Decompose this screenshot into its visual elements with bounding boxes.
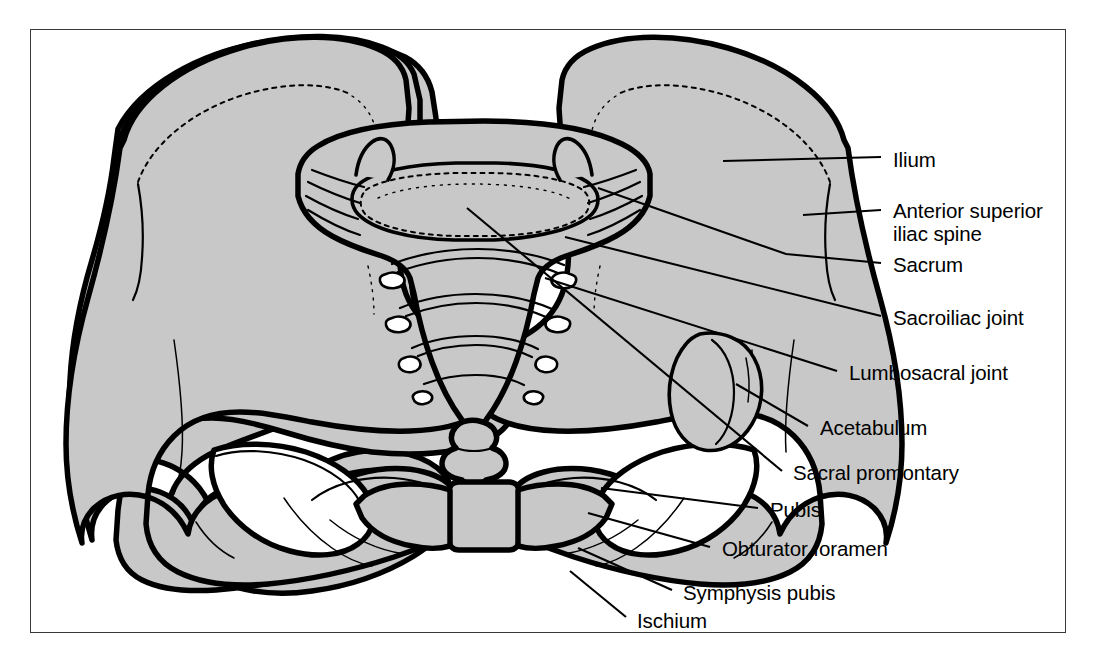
label-anterior-superior-iliac-spine-line2: iliac spine xyxy=(893,222,982,245)
label-ilium-text: Ilium xyxy=(893,148,936,171)
label-symphysis-pubis-text: Symphysis pubis xyxy=(683,581,835,604)
sacral-foramen-left-3 xyxy=(399,357,421,373)
label-symphysis-pubis: Symphysis pubis xyxy=(683,581,835,604)
label-obturator-foramen-text: Obturator foramen xyxy=(722,537,888,560)
label-sacroiliac-joint: Sacroiliac joint xyxy=(893,306,1024,329)
sacral-foramen-right-3 xyxy=(535,357,557,373)
sacral-foramen-left-4 xyxy=(413,391,432,404)
label-sacrum-text: Sacrum xyxy=(893,253,963,276)
label-sacroiliac-joint-text: Sacroiliac joint xyxy=(893,306,1024,329)
label-ilium: Ilium xyxy=(893,148,936,171)
label-pubis-text: Pubis xyxy=(770,498,821,521)
pelvis-illustration: .bone { fill: #c8c8c8; stroke: #000000; … xyxy=(0,0,1096,659)
leader-ischium xyxy=(570,571,626,617)
label-ischium-text: Ischium xyxy=(637,609,707,632)
sacral-foramen-right-4 xyxy=(524,391,543,404)
label-pubis: Pubis xyxy=(770,498,821,521)
label-acetabulum-text: Acetabulum xyxy=(820,416,927,439)
label-sacrum: Sacrum xyxy=(893,253,963,276)
label-sacral-promontary-text: Sacral promontary xyxy=(793,461,959,484)
label-lumbosacral-joint: Lumbosacral joint xyxy=(849,361,1008,384)
label-anterior-superior-iliac-spine-line1: Anterior superior xyxy=(893,199,1043,222)
symphysis-pubis xyxy=(449,482,519,550)
label-ischium: Ischium xyxy=(637,609,707,632)
sacral-foramen-right-2 xyxy=(545,317,570,333)
label-acetabulum: Acetabulum xyxy=(820,416,927,439)
sacral-foramen-left-2 xyxy=(386,317,411,333)
sacral-foramen-left-1 xyxy=(380,273,405,289)
figure-root: .bone { fill: #c8c8c8; stroke: #000000; … xyxy=(0,0,1096,659)
label-lumbosacral-joint-text: Lumbosacral joint xyxy=(849,361,1008,384)
label-obturator-foramen: Obturator foramen xyxy=(722,537,888,560)
label-anterior-superior-iliac-spine: Anterior superior iliac spine xyxy=(893,199,1043,245)
label-sacral-promontary: Sacral promontary xyxy=(793,461,959,484)
